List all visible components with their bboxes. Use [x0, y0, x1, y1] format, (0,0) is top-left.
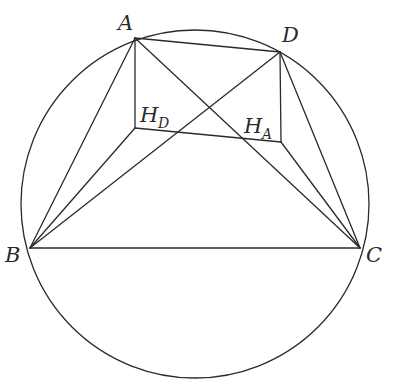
label-HD: H [139, 103, 159, 127]
segment-D-C [280, 52, 360, 248]
label-B: B [4, 243, 20, 267]
label-A: A [116, 11, 133, 35]
circumcircle [21, 30, 369, 378]
segment-D-HA [280, 52, 281, 142]
label-HA: H [243, 114, 263, 138]
label-C: C [366, 243, 382, 267]
segment-A-C [135, 38, 360, 248]
segments [30, 38, 360, 248]
segment-HA-C [281, 142, 360, 248]
label-D: D [281, 23, 299, 47]
geometry-diagram: A D B C H D H A [0, 0, 395, 388]
segment-HD-B [30, 128, 135, 248]
label-HA-sub: A [260, 126, 272, 142]
segment-A-D [135, 38, 280, 52]
segment-A-B [30, 38, 135, 248]
label-HD-sub: D [157, 115, 169, 131]
segment-D-B [30, 52, 280, 248]
